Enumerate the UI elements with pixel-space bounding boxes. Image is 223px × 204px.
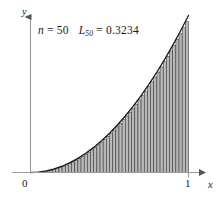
riemann-bar (179, 34, 182, 173)
riemann-bar (91, 150, 94, 173)
riemann-bar (87, 152, 90, 172)
riemann-bar (110, 133, 113, 172)
riemann-bar (166, 56, 169, 172)
riemann-bar (173, 45, 176, 172)
riemann-bar (141, 96, 144, 173)
riemann-bar (170, 51, 173, 173)
riemann-bar (119, 123, 122, 172)
riemann-bar (72, 162, 75, 173)
riemann-bar (163, 62, 166, 173)
riemann-bar (138, 100, 141, 173)
riemann-bar (154, 77, 157, 173)
riemann-bar (100, 142, 103, 172)
riemann-bar (144, 91, 147, 172)
riemann-bars-group (34, 22, 189, 173)
riemann-bar (78, 158, 81, 172)
riemann-bar (103, 139, 106, 172)
riemann-bar (125, 116, 128, 173)
riemann-bar (106, 136, 109, 172)
y-axis-label: y (22, 7, 27, 18)
riemann-bar (185, 22, 188, 173)
riemann-bar (147, 87, 150, 173)
riemann-bar (116, 127, 119, 173)
riemann-bar (94, 147, 97, 172)
origin-label: 0 (22, 178, 28, 189)
riemann-bar (81, 156, 84, 172)
riemann-sum-figure: n = 50L50 = 0.3234 y x 0 1 (0, 0, 223, 204)
riemann-bar (151, 82, 154, 173)
riemann-bar (65, 165, 68, 173)
riemann-bar (132, 108, 135, 172)
L-value: 0.3234 (106, 24, 139, 36)
riemann-bar (84, 154, 87, 172)
riemann-bar (56, 168, 59, 172)
riemann-bar (62, 166, 65, 172)
L-equals-sign: = (96, 24, 103, 36)
riemann-bar (160, 67, 163, 173)
riemann-bar (122, 120, 125, 173)
riemann-bar (113, 130, 116, 172)
riemann-bar (176, 40, 179, 173)
n-equals-sign: = (47, 24, 54, 36)
x-tick-label-one: 1 (185, 178, 191, 189)
riemann-annotation: n = 50L50 = 0.3234 (38, 25, 139, 37)
riemann-bar (128, 112, 131, 172)
riemann-bar (182, 28, 185, 173)
n-value: 50 (57, 24, 69, 36)
riemann-bar (97, 145, 100, 173)
riemann-bar (75, 160, 78, 172)
riemann-bar (135, 104, 138, 172)
riemann-bar (157, 72, 160, 172)
x-axis-label: x (208, 180, 213, 191)
riemann-bar (68, 163, 71, 172)
riemann-bar (59, 167, 62, 172)
